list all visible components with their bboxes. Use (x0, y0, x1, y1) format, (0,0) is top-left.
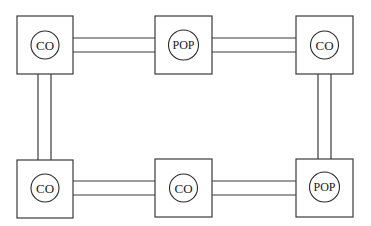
link-bottom-left-bottom-middle (73, 181, 155, 195)
node-bottom-left: CO (17, 160, 73, 218)
node-label: POP (313, 180, 335, 194)
link-bottom-middle-bottom-right (212, 181, 296, 195)
node-label: POP (172, 38, 194, 52)
link-top-left-top-middle (73, 38, 155, 52)
link-top-right-bottom-right (318, 74, 331, 159)
node-top-right: CO (296, 16, 353, 74)
node-top-middle: POP (155, 16, 212, 74)
node-bottom-middle: CO (155, 159, 212, 217)
node-label: CO (36, 38, 54, 53)
link-top-middle-top-right (212, 38, 296, 52)
node-label: CO (174, 181, 192, 196)
node-label: CO (36, 181, 54, 196)
node-label: CO (315, 38, 333, 53)
link-top-left-bottom-left (38, 74, 51, 160)
network-diagram: CO POP CO CO CO POP (0, 0, 371, 226)
node-bottom-right: POP (296, 159, 353, 217)
node-top-left: CO (17, 16, 73, 74)
